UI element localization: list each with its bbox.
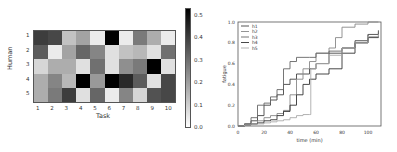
svg-text:h2: h2 <box>252 29 258 34</box>
series-h3 <box>238 32 378 126</box>
svg-text:h3: h3 <box>252 35 258 40</box>
svg-text:80: 80 <box>339 130 345 135</box>
svg-text:100: 100 <box>364 130 373 135</box>
svg-text:0.8: 0.8 <box>228 40 235 45</box>
svg-text:time (min): time (min) <box>296 137 322 143</box>
svg-text:0.0: 0.0 <box>228 124 235 129</box>
svg-text:60: 60 <box>313 130 319 135</box>
series-h1 <box>238 30 378 126</box>
svg-text:0.4: 0.4 <box>228 82 235 87</box>
svg-text:h1: h1 <box>252 24 258 29</box>
svg-text:0.2: 0.2 <box>228 103 235 108</box>
series-h4 <box>238 36 378 126</box>
svg-text:0: 0 <box>237 130 240 135</box>
svg-text:h4: h4 <box>252 40 258 45</box>
line-chart: 0204060801000.00.20.40.60.81.0time (min)… <box>0 0 397 152</box>
series-h5 <box>238 34 378 126</box>
svg-text:1.0: 1.0 <box>228 20 235 25</box>
svg-text:40: 40 <box>287 130 293 135</box>
svg-text:h5: h5 <box>252 46 258 51</box>
svg-text:fatigue: fatigue <box>221 65 228 83</box>
svg-text:20: 20 <box>261 130 267 135</box>
svg-text:0.6: 0.6 <box>228 61 235 66</box>
